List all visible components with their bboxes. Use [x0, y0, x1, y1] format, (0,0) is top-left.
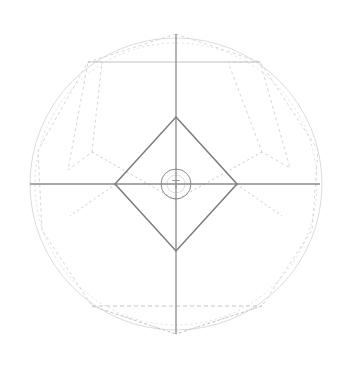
diagonal-hint-line [236, 184, 282, 216]
center-glyph: T [171, 178, 180, 192]
upper-right-panel [228, 62, 290, 168]
construction-drawing: T [0, 0, 344, 368]
upper-left-panel [68, 62, 102, 170]
diagram-canvas: T Geometric construction drawing [0, 0, 344, 368]
diagonal-hint-line [70, 184, 116, 216]
